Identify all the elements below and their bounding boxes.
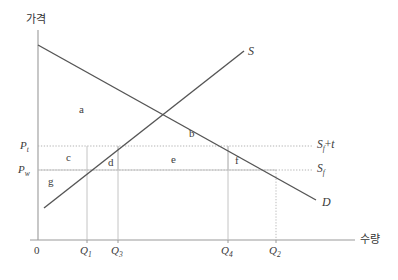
demand-curve [38, 45, 316, 200]
quantity-tick-q3-base: Q [111, 244, 119, 256]
origin-label: 0 [34, 245, 40, 256]
region-label-d: d [108, 157, 114, 168]
x-axis-title: 수량 [360, 234, 380, 245]
diagram-canvas [0, 0, 398, 280]
price-tick-pt-base: P [20, 139, 27, 151]
price-tick-pw-base: P [18, 163, 25, 175]
world-price-label: Sf [317, 163, 325, 175]
sf-plus-t-tail: t [331, 138, 334, 150]
price-tick-pw-sub: w [25, 169, 30, 178]
y-axis-title: 가격 [26, 14, 46, 25]
quantity-tick-q1-sub: 1 [88, 250, 92, 259]
quantity-tick-q1-base: Q [80, 244, 88, 256]
price-tick-pt-sub: t [27, 145, 29, 154]
quantity-tick-q2-base: Q [269, 244, 277, 256]
world-price-plus-tariff-label: Sf+t [317, 139, 335, 151]
sf-plus-t-sub: f [323, 144, 325, 153]
quantity-tick-q1: Q1 [80, 245, 92, 256]
region-label-g: g [48, 176, 54, 187]
price-tick-pw: Pw [18, 164, 30, 175]
region-label-b: b [189, 128, 195, 139]
demand-curve-label: D [322, 196, 331, 208]
region-label-f: f [235, 155, 239, 166]
tariff-welfare-diagram: 가격 수량 0 Pt Pw Q1 Q3 Q4 Q2 S D Sf+t Sf a … [0, 0, 398, 280]
quantity-tick-q4: Q4 [221, 245, 233, 256]
price-tick-pt: Pt [20, 140, 29, 151]
region-label-a: a [79, 104, 84, 115]
supply-curve [44, 51, 244, 208]
region-label-e: e [171, 154, 176, 165]
quantity-tick-q3-sub: 3 [119, 250, 123, 259]
supply-curve-label: S [248, 45, 254, 57]
region-label-c: c [66, 152, 71, 163]
sf-plus-t-base: S [317, 138, 323, 150]
quantity-tick-q2-sub: 2 [277, 250, 281, 259]
sf-sub: f [323, 168, 325, 177]
quantity-tick-q3: Q3 [111, 245, 123, 256]
quantity-tick-q2: Q2 [269, 245, 281, 256]
quantity-tick-q4-base: Q [221, 244, 229, 256]
quantity-tick-q4-sub: 4 [229, 250, 233, 259]
sf-base: S [317, 162, 323, 174]
